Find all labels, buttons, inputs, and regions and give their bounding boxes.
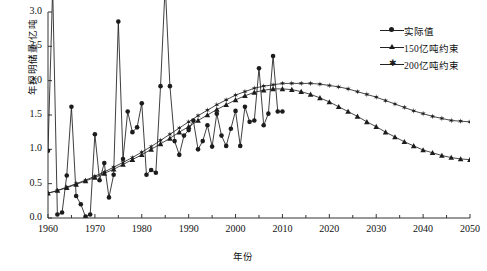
data-point-circle xyxy=(280,109,285,114)
series-1 xyxy=(45,86,473,195)
data-point-triangle xyxy=(392,134,398,139)
data-point-triangle xyxy=(420,147,426,152)
data-point-circle xyxy=(252,118,257,123)
series-2 xyxy=(45,81,472,197)
legend-item[interactable]: 150亿吨约束 xyxy=(380,39,460,56)
data-point-circle xyxy=(93,132,98,137)
data-point-star xyxy=(177,125,182,131)
data-point-triangle xyxy=(364,119,370,124)
data-point-circle xyxy=(97,178,102,183)
data-point-triangle xyxy=(383,129,389,134)
data-point-circle xyxy=(219,133,224,138)
data-point-circle xyxy=(64,173,69,178)
data-point-star xyxy=(130,155,135,161)
data-point-circle xyxy=(266,111,271,116)
data-point-triangle xyxy=(411,143,417,148)
chart-figure: 年探明储量/亿吨 年份 0.00.51.01.52.02.53.0 196019… xyxy=(0,0,487,271)
data-point-triangle xyxy=(327,99,333,104)
legend-symbol xyxy=(380,25,404,37)
data-point-circle xyxy=(130,130,135,135)
series-line xyxy=(48,83,470,193)
data-point-circle xyxy=(74,194,79,199)
data-point-circle xyxy=(46,148,51,153)
data-point-circle xyxy=(149,168,154,173)
legend-item[interactable]: ✱200亿吨约束 xyxy=(380,56,460,73)
data-point-circle xyxy=(229,126,234,131)
data-point-circle xyxy=(144,172,149,177)
data-point-star xyxy=(167,131,172,137)
data-point-circle xyxy=(60,210,65,215)
legend-label: 150亿吨约束 xyxy=(404,41,460,55)
data-point-circle xyxy=(139,101,144,106)
data-point-star xyxy=(186,119,191,125)
data-point-circle xyxy=(261,123,266,128)
data-point-star xyxy=(111,164,116,170)
legend-marker-circle xyxy=(389,27,394,32)
data-point-circle xyxy=(116,19,121,24)
legend-symbol xyxy=(380,42,404,54)
data-point-circle xyxy=(257,66,262,71)
data-point-star xyxy=(196,113,201,119)
data-point-circle xyxy=(196,147,201,152)
data-point-circle xyxy=(55,212,60,217)
data-point-triangle xyxy=(373,124,379,129)
data-point-star xyxy=(205,107,210,113)
data-point-circle xyxy=(69,104,74,109)
data-point-circle xyxy=(111,172,116,177)
data-point-triangle xyxy=(345,109,351,114)
data-point-circle xyxy=(215,111,220,116)
data-point-triangle xyxy=(355,114,361,119)
data-point-triangle xyxy=(402,139,408,144)
data-point-circle xyxy=(88,212,93,217)
data-point-circle xyxy=(135,125,140,130)
legend-item[interactable]: 实际值 xyxy=(380,22,460,39)
data-point-star xyxy=(364,92,369,98)
data-point-star xyxy=(374,94,379,100)
data-point-circle xyxy=(200,139,205,144)
data-point-star xyxy=(355,89,360,95)
data-point-circle xyxy=(238,144,243,149)
data-point-star xyxy=(214,102,219,108)
data-point-circle xyxy=(102,161,107,166)
data-point-star xyxy=(402,105,407,111)
legend-label: 200亿吨约束 xyxy=(404,58,460,72)
data-point-star xyxy=(224,97,229,103)
data-point-circle xyxy=(205,123,210,128)
data-point-star xyxy=(383,98,388,104)
data-point-circle xyxy=(210,144,215,149)
data-point-circle xyxy=(107,195,112,200)
data-point-star xyxy=(411,108,416,114)
data-point-star xyxy=(242,89,247,95)
series-line xyxy=(48,89,470,193)
chart-legend: 实际值150亿吨约束✱200亿吨约束 xyxy=(380,22,460,73)
data-point-circle xyxy=(243,104,248,109)
data-point-triangle xyxy=(317,95,323,100)
data-point-circle xyxy=(233,109,238,114)
data-point-triangle xyxy=(336,104,342,109)
data-point-circle xyxy=(125,109,130,114)
data-point-circle xyxy=(79,202,84,207)
data-point-star xyxy=(233,92,238,98)
series-0 xyxy=(46,0,285,219)
data-point-circle xyxy=(177,153,182,158)
data-point-circle xyxy=(275,109,280,114)
data-point-circle xyxy=(172,139,177,144)
legend-symbol: ✱ xyxy=(380,59,404,71)
data-point-circle xyxy=(247,120,252,125)
data-point-circle xyxy=(271,54,276,59)
data-point-circle xyxy=(168,84,173,89)
legend-label: 实际值 xyxy=(404,24,435,38)
legend-marker-triangle xyxy=(389,44,395,49)
data-point-star xyxy=(392,101,397,107)
legend-marker-star: ✱ xyxy=(389,61,397,66)
series-line xyxy=(48,0,282,217)
data-point-circle xyxy=(158,84,163,89)
data-point-star xyxy=(421,111,426,117)
data-point-circle xyxy=(224,144,229,149)
data-point-circle xyxy=(154,170,159,175)
data-point-circle xyxy=(182,133,187,138)
